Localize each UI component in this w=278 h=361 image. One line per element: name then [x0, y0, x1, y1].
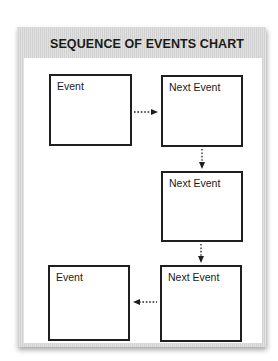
chart-header: SEQUENCE OF EVENTS CHART: [17, 27, 266, 58]
arrow-down-icon: [197, 147, 207, 171]
event-box-4: Next Event: [160, 265, 242, 342]
event-box-1: Event: [49, 74, 132, 146]
event-box-label: Next Event: [168, 271, 219, 283]
event-box-3: Next Event: [161, 171, 243, 242]
chart-title: SEQUENCE OF EVENTS CHART: [50, 37, 244, 51]
event-box-label: Event: [57, 80, 84, 92]
arrow-right-icon: [132, 107, 160, 117]
event-box-label: Next Event: [169, 177, 220, 189]
arrow-down-icon: [196, 242, 206, 265]
event-box-2: Next Event: [161, 75, 243, 147]
arrow-left-icon: [131, 297, 159, 307]
event-box-label: Event: [56, 271, 83, 283]
event-box-label: Next Event: [169, 81, 220, 93]
event-box-5: Event: [48, 265, 130, 341]
